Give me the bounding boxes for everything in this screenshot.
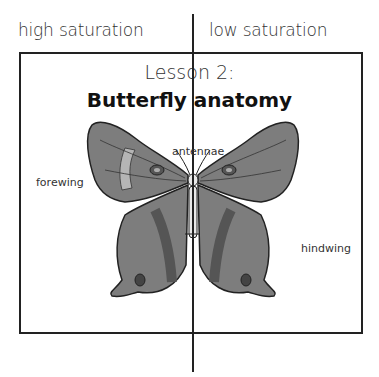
left-forewing xyxy=(88,122,188,202)
hindwing-label: hindwing xyxy=(301,242,351,255)
right-forewing xyxy=(198,122,298,202)
antennae-label: antennae xyxy=(172,145,224,158)
saturation-divider xyxy=(192,14,194,372)
forewing-label: forewing xyxy=(36,176,84,189)
